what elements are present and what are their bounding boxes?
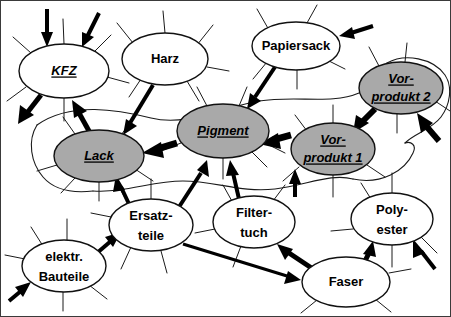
node-ersatzteile[interactable]: Ersatz- teile: [109, 199, 193, 251]
node-pigment-label: Pigment: [197, 123, 249, 138]
node-harz-label: Harz: [151, 51, 180, 66]
spoke: [31, 227, 43, 246]
spoke: [5, 255, 25, 259]
spoke: [91, 213, 111, 217]
spoke: [135, 169, 153, 181]
spoke: [197, 87, 207, 106]
flow-arrow-lack-kfz: [72, 100, 89, 131]
spoke: [375, 299, 391, 312]
node-vorprodukt2-label-line2: produkt 2: [370, 89, 431, 104]
spoke: [389, 269, 411, 273]
spoke: [187, 81, 199, 101]
node-filtertuch-label-line2: tuch: [240, 225, 268, 240]
spoke: [7, 87, 26, 101]
node-kfz-label: KFZ: [51, 63, 77, 78]
spoke: [251, 151, 267, 167]
spoke: [93, 35, 111, 53]
node-polyester-label-line2: ester: [376, 222, 407, 237]
node-vorprodukt2-label-line1: Vor-: [388, 71, 414, 86]
spoke: [257, 9, 269, 30]
network-diagram: KFZ Harz Papiersack Vor- produkt 2 Pigme…: [0, 0, 451, 317]
node-ersatzteile-label-line2: teile: [138, 228, 164, 243]
spoke: [63, 19, 64, 44]
spoke: [421, 237, 437, 253]
spoke: [233, 246, 241, 267]
flow-arrow-external-elektrbauteile: [9, 282, 31, 301]
flow-arrow-external-kfz-2: [82, 13, 99, 47]
flow-arrow-kfz-external: [18, 95, 41, 124]
flow-arrow-external-kfz-1: [41, 9, 53, 47]
node-polyester-label-line1: Poly-: [376, 202, 408, 217]
spoke: [239, 87, 247, 106]
node-elektrbauteile-label-line2: Bauteile: [39, 269, 90, 284]
spoke: [273, 185, 285, 201]
spoke: [37, 165, 57, 171]
flow-arrow-external-polyester: [413, 239, 435, 269]
spoke: [13, 37, 31, 53]
spoke: [307, 5, 317, 23]
node-elektrbauteile-label-line1: elektr.: [45, 249, 83, 264]
spoke: [195, 229, 215, 233]
node-papiersack[interactable]: Papiersack: [252, 22, 340, 70]
spoke: [301, 300, 317, 313]
spoke: [369, 47, 379, 66]
node-vorprodukt1-label-line1: Vor-: [320, 132, 346, 147]
node-pigment[interactable]: Pigment: [177, 104, 269, 158]
flow-arrow-pigment-lack: [142, 142, 177, 158]
node-lack-label: Lack: [84, 148, 114, 163]
spoke: [107, 77, 129, 83]
flow-arrow-papiersack-pigment: [247, 67, 275, 109]
spoke: [129, 79, 141, 97]
node-elektrbauteile[interactable]: elektr. Bauteile: [22, 240, 106, 292]
node-filtertuch-label-line1: Filter-: [236, 205, 272, 220]
flow-arrow-external-papiersack: [339, 26, 373, 39]
spoke: [295, 115, 307, 131]
spoke: [89, 285, 107, 299]
node-vorprodukt2[interactable]: Vor- produkt 2: [359, 62, 443, 114]
spoke: [63, 117, 75, 134]
spoke: [331, 229, 353, 231]
spoke: [163, 11, 165, 33]
node-lack[interactable]: Lack: [54, 130, 144, 182]
node-papiersack-label: Papiersack: [262, 38, 331, 53]
spoke: [121, 247, 131, 269]
node-faser-label: Faser: [329, 274, 364, 289]
node-ersatzteile-label-line1: Ersatz-: [129, 208, 172, 223]
spoke: [207, 67, 229, 71]
node-vorprodukt1[interactable]: Vor- produkt 1: [291, 123, 375, 175]
flow-arrow-vorprodukt1-filtertuch: [289, 169, 301, 197]
node-vorprodukt1-label-line2: produkt 1: [302, 150, 362, 165]
node-polyester[interactable]: Poly- ester: [351, 193, 433, 245]
spoke: [367, 165, 385, 177]
flow-arrow-ersatzteile-pigment: [179, 160, 209, 207]
node-filtertuch[interactable]: Filter- tuch: [213, 196, 295, 248]
diagram-canvas: KFZ Harz Papiersack Vor- produkt 2 Pigme…: [1, 1, 451, 317]
spoke: [253, 62, 267, 79]
node-kfz[interactable]: KFZ: [19, 44, 109, 98]
flow-arrow-external-vorprodukt2: [417, 113, 439, 141]
spoke: [161, 251, 167, 273]
node-faser[interactable]: Faser: [302, 257, 390, 307]
spoke: [197, 25, 213, 45]
spoke: [405, 43, 407, 62]
flow-arrow-harz-lack: [123, 85, 153, 135]
flow-arrow-faser-filtertuch: [277, 244, 313, 269]
node-harz[interactable]: Harz: [122, 33, 208, 85]
spoke: [117, 23, 133, 43]
